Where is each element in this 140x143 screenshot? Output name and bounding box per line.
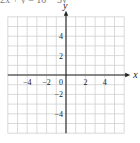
x-tick-label: 0 bbox=[59, 78, 63, 87]
x-tick-label: −4 bbox=[23, 78, 32, 87]
x-axis-label: x bbox=[132, 69, 138, 80]
y-tick-label: 2 bbox=[59, 52, 63, 61]
y-axis-arrow-icon bbox=[64, 11, 68, 16]
x-axis-arrow-icon bbox=[125, 73, 130, 77]
x-tick-label: 4 bbox=[103, 78, 107, 87]
y-axis-label: y bbox=[62, 0, 68, 11]
y-tick-label: −4 bbox=[54, 110, 63, 119]
y-tick-label: −2 bbox=[54, 90, 63, 99]
x-tick-label: 2 bbox=[83, 78, 87, 87]
y-tick-label: 4 bbox=[59, 32, 63, 41]
coordinate-grid: xy−4−202442−2−4 bbox=[0, 0, 140, 143]
x-tick-label: −2 bbox=[42, 78, 51, 87]
